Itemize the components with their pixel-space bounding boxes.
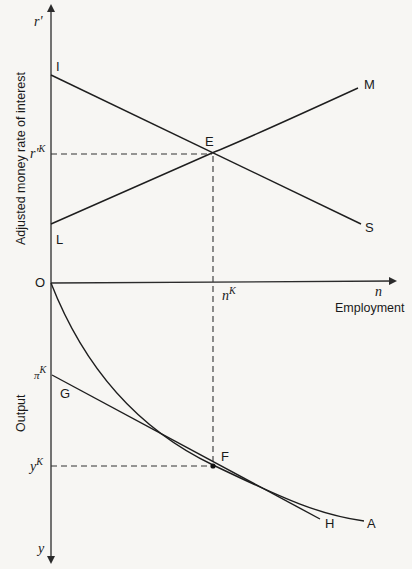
gh-tangent-line — [52, 375, 320, 519]
rk-label: r'K — [30, 143, 46, 161]
point-m-label: M — [364, 77, 375, 92]
pi-k-label: πK — [34, 364, 48, 381]
horizontal-axis — [51, 281, 393, 283]
lm-curve — [51, 88, 358, 224]
is-curve — [51, 75, 361, 224]
point-f-marker — [210, 463, 215, 468]
point-h-label: H — [325, 516, 334, 531]
point-i-label: I — [56, 59, 60, 74]
point-e-label: E — [205, 134, 214, 149]
interest-rate-axis-title: Adjusted money rate of interest — [14, 71, 28, 245]
r-prime-axis-label: r' — [34, 14, 43, 29]
output-axis-title: Output — [14, 394, 28, 432]
n-axis-label: n — [375, 284, 382, 299]
point-l-label: L — [56, 232, 63, 247]
employment-axis-title: Employment — [335, 301, 405, 315]
nk-label: nK — [222, 285, 237, 303]
production-function-curve — [51, 283, 364, 521]
keynesian-diagram: r' y n Employment O Adjusted money rate … — [0, 0, 412, 569]
origin-label: O — [35, 275, 45, 290]
point-a-label: A — [367, 516, 376, 531]
point-g-label: G — [60, 386, 70, 401]
point-s-label: S — [365, 220, 374, 235]
point-f-label: F — [221, 449, 229, 464]
y-axis-label: y — [36, 541, 45, 556]
yk-label: yK — [28, 456, 44, 474]
